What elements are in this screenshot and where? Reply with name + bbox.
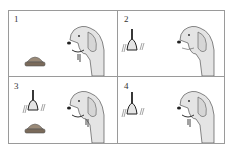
panel-4: 4 (118, 77, 227, 143)
panel-3: 3 (8, 77, 117, 143)
panel-4-art (118, 77, 227, 143)
food-bowl-icon (25, 57, 45, 66)
dog-icon (67, 26, 104, 76)
bell-icon (122, 29, 144, 52)
saliva-drops-icon (188, 119, 190, 127)
dog-icon (177, 91, 214, 143)
saliva-drops-icon (78, 54, 80, 62)
dog-icon (67, 91, 104, 143)
panel-1-art (8, 10, 117, 76)
food-bowl-icon (25, 124, 45, 133)
bell-icon (122, 92, 144, 117)
panel-2-art (118, 10, 227, 76)
bell-icon (23, 90, 45, 113)
dog-icon (177, 26, 214, 76)
panel-1: 1 (8, 10, 117, 76)
panel-3-art (8, 77, 117, 143)
panel-2: 2 (118, 10, 227, 76)
